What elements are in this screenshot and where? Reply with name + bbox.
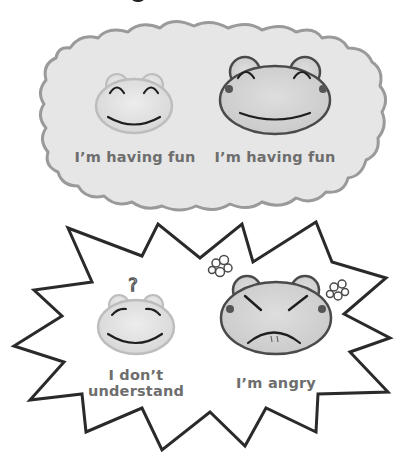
caption-large-happy: I’m having fun [212, 149, 338, 165]
caption-confused-line2: understand [84, 383, 188, 399]
cheek-icon [319, 85, 327, 93]
illustration-canvas: ? [0, 0, 410, 473]
caption-confused-line1: I don’t [84, 367, 188, 383]
caption-angry: I’m angry [226, 375, 326, 391]
cheek-icon [318, 305, 326, 313]
frog-angry [221, 276, 331, 354]
thought-cloud [40, 21, 385, 210]
cheek-icon [225, 85, 233, 93]
frog-happy-large [220, 57, 330, 134]
question-mark-icon: ? [128, 274, 138, 295]
cheek-icon [226, 305, 234, 313]
spiky-burst [14, 222, 390, 450]
frog-happy-small [96, 74, 172, 133]
caption-small-happy: I’m having fun [72, 149, 198, 165]
